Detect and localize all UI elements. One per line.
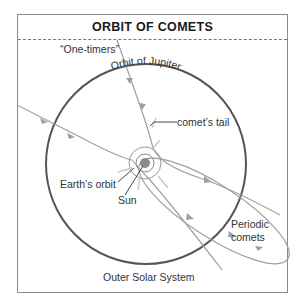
outer-solar-system-label: Outer Solar System — [103, 271, 195, 283]
periodic-comets-label-line2: comets — [231, 231, 265, 243]
direction-arrows — [40, 78, 263, 251]
earths-orbit-label: Earth’s orbit — [60, 178, 116, 190]
one-timer-path-left — [17, 105, 222, 270]
orbit-diagram: “One-timers” Orbit of Jupiter comet’s ta… — [0, 0, 300, 301]
one-timers-label: “One-timers” — [60, 43, 119, 55]
sun-label: Sun — [118, 194, 137, 206]
periodic-comets-label-line1: Periodic — [231, 218, 269, 230]
comets-tail-label: comet’s tail — [177, 116, 229, 128]
sun-icon — [140, 158, 150, 168]
periodic-comet-orbit — [126, 141, 300, 280]
jupiter-orbit-label: Orbit of Jupiter — [109, 54, 183, 72]
